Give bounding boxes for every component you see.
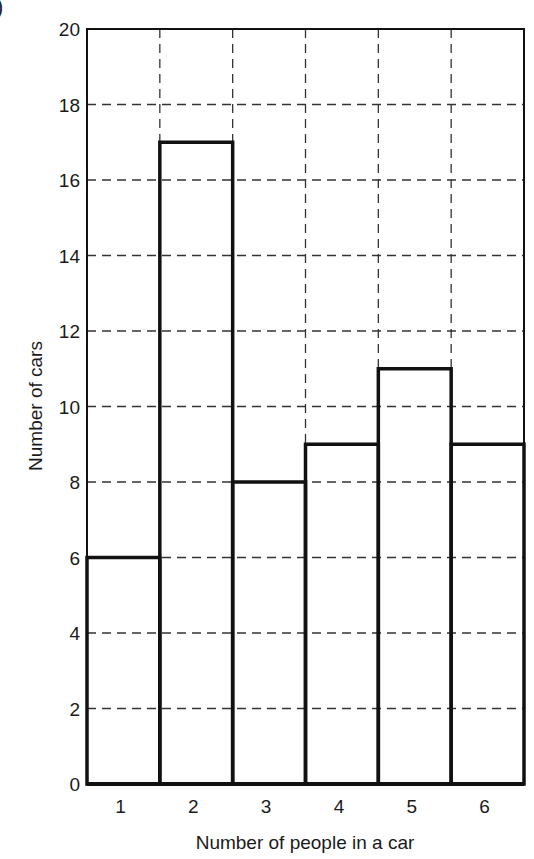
bar-3 — [233, 482, 306, 784]
y-tick-labels: 02468101214161820 — [59, 19, 81, 795]
y-tick-label: 12 — [59, 321, 80, 342]
y-tick-label: 4 — [69, 623, 80, 644]
histogram-chart: 02468101214161820 123456 Number of peopl… — [0, 0, 534, 859]
x-tick-label: 2 — [188, 796, 199, 817]
y-tick-label: 10 — [59, 397, 80, 418]
bar-5 — [378, 369, 451, 784]
y-tick-label: 2 — [69, 699, 80, 720]
y-tick-label: 6 — [69, 548, 80, 569]
bar-1 — [87, 558, 160, 785]
y-tick-label: 16 — [59, 170, 80, 191]
x-tick-labels: 123456 — [115, 796, 490, 817]
bar-6 — [451, 444, 524, 784]
x-tick-label: 4 — [334, 796, 345, 817]
x-tick-label: 1 — [115, 796, 126, 817]
y-tick-label: 18 — [59, 95, 80, 116]
x-tick-label: 6 — [479, 796, 490, 817]
y-tick-label: 20 — [59, 19, 80, 40]
bar-4 — [306, 444, 379, 784]
x-tick-label: 5 — [406, 796, 417, 817]
x-tick-label: 3 — [261, 796, 272, 817]
bars — [87, 142, 524, 784]
y-tick-label: 8 — [69, 472, 80, 493]
bar-2 — [160, 142, 233, 784]
y-tick-label: 0 — [69, 774, 80, 795]
y-tick-label: 14 — [59, 246, 81, 267]
y-axis-label: Number of cars — [25, 341, 46, 471]
x-axis-label: Number of people in a car — [196, 832, 415, 853]
